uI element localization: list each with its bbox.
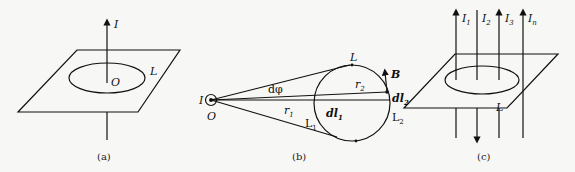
panel-c: I1 I2 I3 In L (c)	[404, 10, 558, 162]
loop-label-L-c: L	[495, 101, 503, 114]
angle-label-dphi: dφ	[268, 83, 283, 96]
r2-label: r2	[355, 78, 365, 93]
caption-c: (c)	[477, 151, 491, 162]
B-field-arrow-icon	[385, 72, 387, 92]
figure-canvas: I O L (a) I O L dφ r1 r2 dl1 dl2 L1 L2 B…	[0, 0, 575, 172]
current-label-I3: I3	[504, 12, 514, 27]
point-top	[351, 64, 354, 67]
current-label-a: I	[113, 18, 119, 31]
center-label-O: O	[111, 76, 120, 89]
point-bottom	[355, 140, 358, 143]
caption-a: (a)	[97, 151, 111, 162]
ampere-law-figure: I O L (a) I O L dφ r1 r2 dl1 dl2 L1 L2 B…	[0, 0, 575, 172]
origin-label-O: O	[207, 110, 216, 123]
tangent-lower	[211, 100, 337, 137]
plane-c	[404, 54, 558, 108]
B-field-label: B	[390, 68, 400, 81]
L1-label: L1	[305, 117, 317, 132]
L2-label: L2	[392, 111, 404, 126]
current-label-I1: I1	[461, 12, 471, 27]
current-label-In: In	[527, 12, 537, 27]
panel-b: I O L dφ r1 r2 dl1 dl2 L1 L2 B (b)	[198, 51, 409, 162]
loop-L-b	[314, 65, 390, 141]
caption-b: (b)	[292, 151, 306, 162]
dl1-label: dl1	[326, 107, 343, 122]
r1-label: r1	[284, 104, 294, 119]
panel-a: I O L (a)	[18, 18, 180, 162]
loop-label-L-a: L	[149, 65, 157, 78]
current-label-I2: I2	[481, 12, 491, 27]
current-label-b: I	[198, 94, 204, 107]
plane-a	[18, 50, 180, 112]
loop-label-L-b: L	[349, 51, 357, 64]
